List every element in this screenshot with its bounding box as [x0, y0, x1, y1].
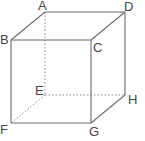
- edge-AB: [11, 12, 45, 40]
- vertex-label-G: G: [89, 124, 99, 139]
- vertex-label-F: F: [0, 122, 8, 137]
- visible-edges: [11, 12, 125, 123]
- vertex-label-B: B: [0, 32, 9, 47]
- cube-diagram: A B C D E F G H: [0, 0, 145, 141]
- vertex-label-A: A: [38, 0, 47, 13]
- vertex-label-E: E: [35, 83, 44, 98]
- vertex-label-H: H: [128, 92, 137, 107]
- vertex-label-D: D: [124, 0, 133, 14]
- edge-EF: [11, 95, 45, 123]
- vertex-label-C: C: [93, 40, 102, 55]
- edge-CD: [91, 12, 125, 40]
- edge-GH: [91, 95, 125, 123]
- vertex-labels: A B C D E F G H: [0, 0, 137, 139]
- hidden-edges: [11, 12, 125, 123]
